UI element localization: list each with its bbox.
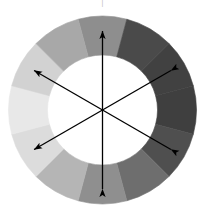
color-wheel-svg <box>0 0 205 214</box>
color-wheel-figure: | <box>0 0 205 214</box>
